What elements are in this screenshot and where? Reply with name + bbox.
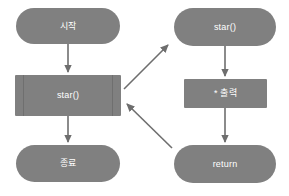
flowchart-canvas: 시작 star() 종료 star() * 출력 return (0, 0, 289, 196)
node-start-label: 시작 (60, 22, 76, 31)
node-start[interactable]: 시작 (16, 8, 120, 44)
node-print-output[interactable]: * 출력 (184, 79, 267, 108)
edge-return-to-call (127, 104, 172, 148)
node-end-label: 종료 (60, 159, 76, 168)
node-print-output-label: * 출력 (214, 89, 237, 98)
node-call-star[interactable]: star() (15, 75, 121, 116)
node-call-star-label: star() (57, 91, 79, 100)
node-function-star[interactable]: star() (174, 8, 276, 46)
node-function-star-label: star() (214, 23, 236, 32)
node-return[interactable]: return (174, 145, 276, 183)
node-return-label: return (213, 160, 238, 169)
edge-call-to-func (124, 45, 168, 89)
node-end[interactable]: 종료 (16, 145, 120, 182)
